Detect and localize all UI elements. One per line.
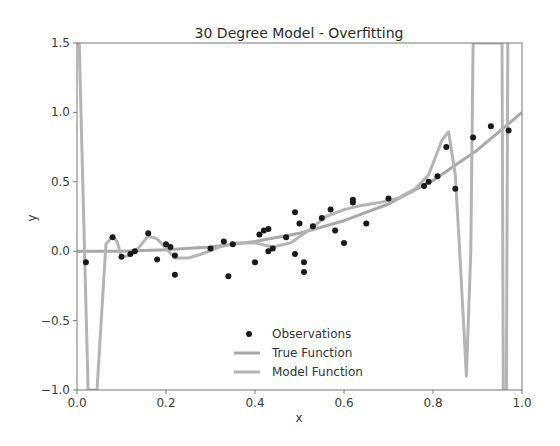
observation-point bbox=[328, 207, 334, 213]
observation-point bbox=[172, 272, 178, 278]
y-tick-label: 0.5 bbox=[51, 175, 70, 189]
observation-point bbox=[319, 215, 325, 221]
y-tick-label: 1.5 bbox=[51, 36, 70, 50]
observation-point bbox=[167, 244, 173, 250]
observation-point bbox=[421, 183, 427, 189]
observation-point bbox=[110, 234, 116, 240]
x-axis-ticks: 0.00.20.40.60.81.0 bbox=[67, 390, 531, 410]
observation-point bbox=[265, 226, 271, 232]
observation-point bbox=[119, 254, 125, 260]
observation-point bbox=[341, 240, 347, 246]
observation-point bbox=[132, 248, 138, 254]
observation-point bbox=[310, 223, 316, 229]
observation-point bbox=[297, 220, 303, 226]
chart-title: 30 Degree Model - Overfitting bbox=[195, 25, 404, 41]
observation-point bbox=[488, 123, 494, 129]
observation-point bbox=[506, 127, 512, 133]
legend-true-function-label: True Function bbox=[271, 346, 352, 360]
y-tick-label: −1.0 bbox=[41, 383, 70, 397]
legend-model-function-label: Model Function bbox=[272, 365, 363, 379]
observation-point bbox=[154, 257, 160, 263]
y-tick-label: 1.0 bbox=[51, 105, 70, 119]
observation-point bbox=[292, 251, 298, 257]
observation-point bbox=[443, 144, 449, 150]
x-tick-label: 0.6 bbox=[334, 396, 353, 410]
observation-point bbox=[270, 245, 276, 251]
observation-point bbox=[83, 259, 89, 265]
x-tick-label: 0.4 bbox=[245, 396, 264, 410]
y-axis-label: y bbox=[25, 214, 39, 221]
x-tick-label: 0.2 bbox=[156, 396, 175, 410]
observation-point bbox=[172, 252, 178, 258]
observation-point bbox=[252, 259, 258, 265]
y-tick-label: −0.5 bbox=[41, 314, 70, 328]
observation-point bbox=[350, 200, 356, 206]
y-tick-label: 0.0 bbox=[51, 244, 70, 258]
legend-observations-label: Observations bbox=[272, 327, 351, 341]
y-axis-ticks: −1.0−0.50.00.51.01.5 bbox=[41, 36, 77, 397]
observation-point bbox=[301, 259, 307, 265]
legend: Observations True Function Model Functio… bbox=[234, 327, 363, 379]
chart: 0.00.20.40.60.81.0 −1.0−0.50.00.51.01.5 … bbox=[0, 0, 560, 446]
observation-point bbox=[363, 220, 369, 226]
x-axis-label: x bbox=[295, 411, 302, 425]
observation-point bbox=[225, 273, 231, 279]
observation-point bbox=[332, 227, 338, 233]
x-tick-label: 0.8 bbox=[423, 396, 442, 410]
observation-point bbox=[221, 239, 227, 245]
observation-point bbox=[230, 241, 236, 247]
observation-point bbox=[470, 134, 476, 140]
observation-point bbox=[208, 245, 214, 251]
observation-point bbox=[435, 173, 441, 179]
observation-point bbox=[426, 179, 432, 185]
observation-point bbox=[301, 269, 307, 275]
observation-point bbox=[386, 196, 392, 202]
x-tick-label: 1.0 bbox=[512, 396, 531, 410]
x-tick-label: 0.0 bbox=[67, 396, 86, 410]
observation-point bbox=[256, 232, 262, 238]
observation-point bbox=[283, 234, 289, 240]
observation-point bbox=[452, 186, 458, 192]
observation-point bbox=[145, 230, 151, 236]
legend-observations-marker bbox=[246, 331, 252, 337]
observation-point bbox=[292, 209, 298, 215]
